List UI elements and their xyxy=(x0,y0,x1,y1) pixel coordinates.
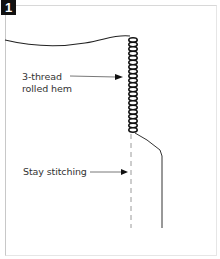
stay-stitching-label: Stay stitching xyxy=(23,166,87,178)
rolled-hem-label-line1: 3-thread xyxy=(22,71,72,83)
stay-stitching-arrowhead xyxy=(121,169,128,175)
rolled-hem-label: 3-thread rolled hem xyxy=(22,71,72,95)
rolled-hem-stitches xyxy=(129,38,137,132)
rolled-hem-label-line2: rolled hem xyxy=(22,83,72,95)
rolled-hem-arrowhead xyxy=(115,74,123,80)
rolled-hem-arrow-line xyxy=(70,76,116,77)
fabric-top-edge xyxy=(5,36,130,46)
fabric-side-edge xyxy=(135,133,162,228)
hem-illustration xyxy=(0,0,220,259)
